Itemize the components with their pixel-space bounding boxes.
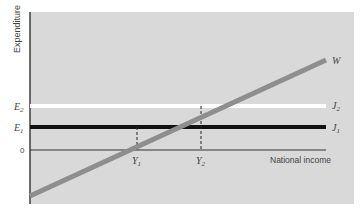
zero-label: 0: [20, 146, 25, 155]
e2-label: E2: [13, 101, 24, 114]
chart: Expenditure E2 E1 0 Y1 Y2 National incom…: [0, 0, 364, 212]
x-axis-label: National income: [270, 155, 331, 165]
e1-label: E1: [13, 122, 24, 135]
y-axis-label: Expenditure: [12, 5, 22, 53]
